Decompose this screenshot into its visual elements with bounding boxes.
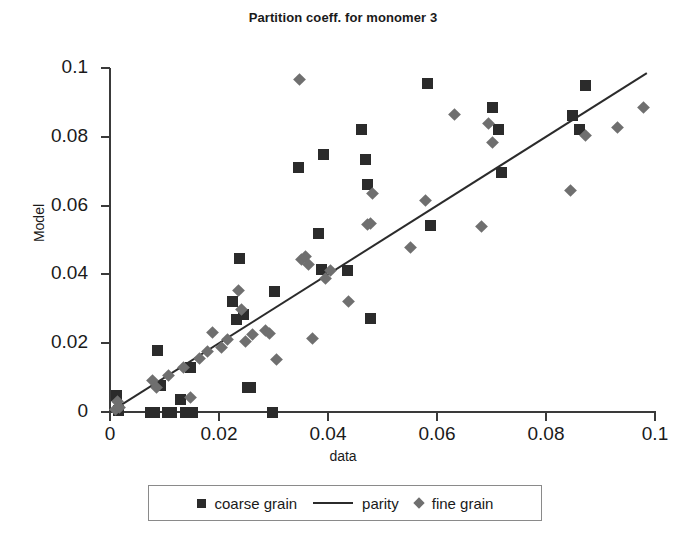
x-axis-tick: [436, 412, 438, 421]
x-axis-tick: [109, 412, 111, 421]
legend-entry-coarse-grain: coarse grain: [197, 495, 298, 512]
x-axis-tick-label: 0.08: [506, 424, 586, 443]
x-axis-tick: [327, 412, 329, 421]
parity-line-segment: [110, 73, 647, 412]
square-marker-icon: [197, 499, 206, 508]
x-axis-tick: [654, 412, 656, 421]
legend-label: parity: [362, 495, 399, 512]
y-axis-tick: [101, 136, 110, 138]
chart-legend: coarse grainparityfine grain: [148, 485, 542, 521]
y-axis-tick-label: 0.08: [28, 126, 88, 145]
y-axis-tick: [101, 342, 110, 344]
x-axis-tick-label: 0: [70, 424, 150, 443]
legend-label: coarse grain: [215, 495, 298, 512]
x-axis-tick-label: 0.04: [288, 424, 368, 443]
x-axis-tick: [218, 412, 220, 421]
parity-line: [110, 68, 655, 412]
diamond-marker-icon: [413, 497, 424, 508]
plot-area: [110, 68, 655, 412]
legend-entry-parity: parity: [313, 495, 399, 512]
x-axis-title: data: [0, 448, 686, 464]
x-axis-tick-label: 0.02: [179, 424, 259, 443]
line-marker-icon: [313, 502, 353, 504]
legend-entry-fine-grain: fine grain: [415, 495, 494, 512]
x-axis-tick-label: 0.06: [397, 424, 477, 443]
y-axis-title: Model: [31, 178, 47, 268]
x-axis-tick: [545, 412, 547, 421]
chart-container: Partition coeff. for monomer 3 00.020.04…: [0, 0, 686, 536]
y-axis-tick-label: 0: [28, 401, 88, 420]
chart-title: Partition coeff. for monomer 3: [0, 10, 686, 25]
legend-label: fine grain: [432, 495, 494, 512]
y-axis-tick: [101, 205, 110, 207]
y-axis-tick: [101, 273, 110, 275]
y-axis-tick-label: 0.02: [28, 332, 88, 351]
x-axis-tick-label: 0.1: [615, 424, 686, 443]
y-axis-tick-label: 0.1: [28, 57, 88, 76]
y-axis-tick: [101, 67, 110, 69]
